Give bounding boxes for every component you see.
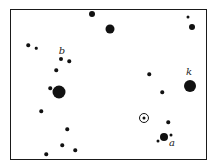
star <box>147 72 151 76</box>
star <box>39 109 43 113</box>
star <box>60 143 64 147</box>
star <box>73 148 77 152</box>
star <box>157 140 160 143</box>
star <box>26 43 30 47</box>
star <box>89 11 95 17</box>
star <box>187 16 190 19</box>
star <box>54 68 58 72</box>
sun-icon <box>139 113 149 123</box>
star-label-b: b <box>59 46 65 56</box>
star-label-a: a <box>169 138 175 148</box>
star <box>184 80 196 92</box>
star <box>67 59 71 63</box>
star <box>59 57 63 61</box>
star-label-k: k <box>186 67 192 77</box>
star <box>53 86 66 99</box>
star <box>35 47 38 50</box>
star <box>44 152 48 156</box>
star <box>189 24 195 30</box>
star <box>65 127 69 131</box>
star <box>160 133 168 141</box>
star <box>106 25 115 34</box>
star <box>166 120 170 124</box>
star <box>48 86 52 90</box>
star-chart: b k a <box>0 0 214 167</box>
star <box>160 90 164 94</box>
